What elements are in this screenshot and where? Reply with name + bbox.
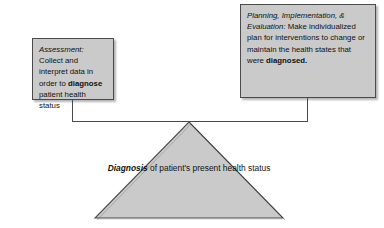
diagnosis-text: Diagnosis of patient's present health st… — [93, 162, 285, 175]
assessment-label: Assessment: — [39, 45, 84, 54]
diagnosis-body: of patient's present health status — [148, 163, 271, 173]
connector-left-stem — [72, 100, 73, 122]
process-box-planning-implementation-evaluation: Planning, Implementation, & Evaluation: … — [240, 4, 376, 98]
assessment-body-after: patient health status — [39, 90, 86, 110]
diagnosis-triangle: Diagnosis of patient's present health st… — [93, 120, 285, 220]
diagram-canvas: Assessment: Collect and interpret data i… — [0, 0, 384, 228]
process-box-assessment: Assessment: Collect and interpret data i… — [32, 38, 114, 100]
diagnosis-emphasis: Diagnosis — [108, 163, 148, 173]
planning-emphasis: diagnosed. — [266, 56, 307, 65]
connector-right-stem — [307, 98, 308, 122]
assessment-emphasis: diagnose — [68, 79, 102, 88]
